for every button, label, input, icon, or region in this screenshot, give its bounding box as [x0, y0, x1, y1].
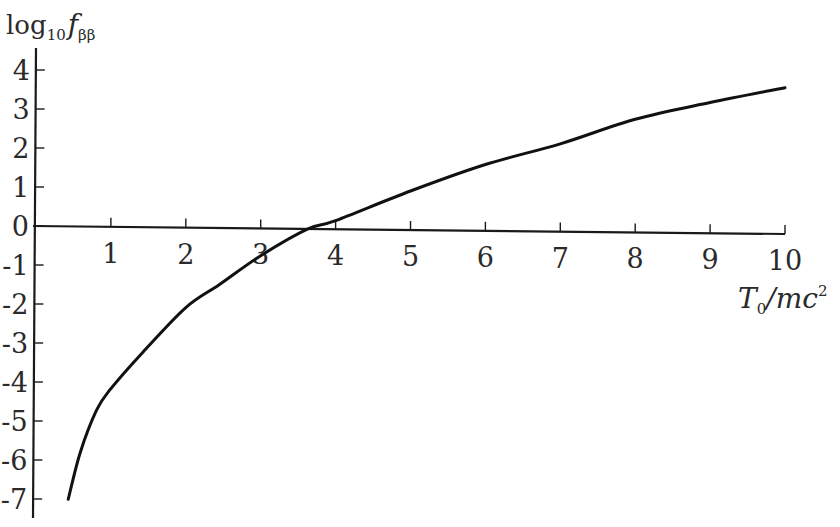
- y-tick-label: -7: [1, 484, 27, 515]
- y-tick-label: -4: [2, 367, 28, 398]
- chart: 43210-1-2-3-4-5-6-7 12345678910 log10fββ…: [0, 0, 840, 527]
- y-tick-label: 2: [12, 133, 29, 164]
- x-axis: 12345678910: [33, 218, 802, 276]
- x-tick-label: 9: [702, 244, 719, 275]
- x-tick-label: 7: [552, 243, 569, 274]
- y-axis-title: log10fββ: [6, 8, 95, 44]
- y-tick-label: -1: [2, 250, 28, 281]
- y-tick-label: 4: [13, 55, 30, 86]
- x-axis-title: T0/mc2: [738, 282, 827, 318]
- x-tick-label: 10: [768, 245, 802, 276]
- x-tick-label: 5: [402, 241, 419, 272]
- x-axis-line: [33, 226, 785, 234]
- y-tick-label: 1: [12, 172, 29, 203]
- y-axis-line: [33, 48, 36, 518]
- x-tick-label: 1: [102, 238, 119, 269]
- y-tick-label: 0: [12, 211, 29, 242]
- y-tick-label: -2: [2, 289, 28, 320]
- y-tick-label: 3: [12, 94, 29, 125]
- y-tick-label: -6: [1, 445, 27, 476]
- x-tick-label: 2: [177, 239, 194, 270]
- x-tick-label: 4: [327, 240, 344, 271]
- y-axis: 43210-1-2-3-4-5-6-7: [1, 48, 45, 518]
- y-tick-label: -3: [2, 328, 28, 359]
- y-tick-label: -5: [1, 406, 27, 437]
- x-tick-label: 8: [627, 243, 644, 274]
- x-tick-label: 6: [477, 242, 494, 273]
- data-curve: [68, 88, 785, 500]
